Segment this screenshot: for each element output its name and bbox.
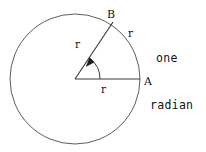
point-label-a: A (144, 76, 152, 87)
angle-arrow-head (86, 57, 94, 66)
caption-line-one: one (156, 51, 193, 67)
radius-line-slanted (75, 22, 113, 79)
radius-label-slanted: r (75, 39, 80, 50)
caption-line-radian: radian (150, 98, 193, 114)
radius-label-arc: r (128, 28, 133, 39)
point-label-b: B (107, 9, 115, 20)
radius-label-horizontal: r (101, 84, 106, 95)
radian-figure: B A r r r one radian (0, 0, 206, 152)
caption-one-radian: one radian (156, 20, 193, 144)
